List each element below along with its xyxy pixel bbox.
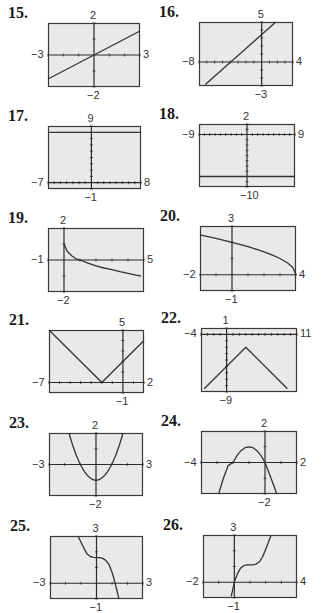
- window-label-bottom: −1: [227, 601, 240, 612]
- window-label-top: 5: [258, 9, 264, 20]
- window-label-right: 9: [298, 129, 304, 140]
- window-label-right: 4: [296, 56, 302, 67]
- window-label-bottom: −1: [90, 602, 103, 613]
- window-label-right: 4: [299, 269, 305, 280]
- window-label-bottom: −2: [89, 499, 102, 510]
- plot-window: [199, 124, 295, 187]
- plot-window: [49, 330, 144, 393]
- plot-window: [48, 228, 144, 292]
- window-label-bottom: −2: [258, 497, 271, 508]
- exercise-number: 18.: [159, 105, 179, 123]
- window-label-bottom: −2: [57, 295, 70, 306]
- window-label-top: 2: [243, 111, 249, 122]
- plot-window: [201, 328, 297, 392]
- window-label-left: −8: [182, 56, 195, 67]
- exercise-number: 25.: [10, 517, 30, 535]
- exercise-number: 16.: [159, 3, 179, 21]
- window-label-left: −7: [31, 177, 44, 188]
- exercise-number: 15.: [8, 4, 28, 22]
- window-label-left: −4: [184, 457, 197, 468]
- window-label-left: −9: [182, 129, 195, 140]
- window-label-top: 3: [230, 522, 236, 533]
- exercise-number: 26.: [163, 516, 183, 534]
- window-label-left: −2: [186, 576, 199, 587]
- window-label-left: −1: [31, 254, 44, 265]
- window-label-right: 2: [300, 457, 306, 468]
- plot-window: [203, 535, 297, 598]
- window-label-top: 9: [87, 113, 93, 124]
- window-label-left: −3: [31, 49, 44, 60]
- window-label-top: 1: [223, 315, 229, 326]
- window-label-left: −2: [183, 269, 196, 280]
- window-label-top: 2: [92, 420, 98, 431]
- window-label-right: 2: [147, 377, 153, 388]
- exercise-number: 19.: [8, 209, 28, 227]
- plot-window: [50, 536, 143, 599]
- window-label-bottom: −1: [116, 396, 129, 407]
- window-label-bottom: −1: [225, 294, 238, 305]
- window-label-right: 3: [146, 577, 152, 588]
- window-label-bottom: −3: [255, 89, 268, 100]
- window-label-right: 3: [143, 49, 149, 60]
- plot-window: [199, 22, 293, 86]
- window-label-top: 3: [228, 213, 234, 224]
- window-label-right: 3: [146, 459, 152, 470]
- plot-window: [48, 23, 140, 87]
- exercise-number: 24.: [161, 412, 181, 430]
- window-label-right: 5: [147, 254, 153, 265]
- window-label-top: 5: [119, 317, 125, 328]
- window-label-right: 8: [144, 177, 150, 188]
- window-label-right: 4: [300, 576, 306, 587]
- window-label-left: −4: [184, 328, 197, 339]
- window-label-left: −7: [32, 377, 45, 388]
- plot-window: [49, 433, 143, 496]
- window-label-bottom: −1: [84, 192, 97, 203]
- exercise-number: 23.: [9, 414, 29, 432]
- window-label-bottom: −9: [220, 395, 233, 406]
- window-label-top: 3: [93, 523, 99, 534]
- plot-window: [201, 431, 297, 494]
- exercise-number: 22.: [161, 309, 181, 327]
- window-label-top: 2: [90, 10, 96, 21]
- plot-window: [48, 126, 141, 189]
- exercise-number: 21.: [9, 311, 29, 329]
- window-label-top: 2: [60, 215, 66, 226]
- window-label-bottom: −2: [87, 90, 100, 101]
- window-label-right: 11: [300, 328, 311, 339]
- window-label-left: −3: [33, 577, 46, 588]
- exercise-number: 20.: [160, 207, 180, 225]
- plot-window: [200, 226, 296, 291]
- exercise-number: 17.: [8, 107, 28, 125]
- window-label-top: 2: [261, 418, 267, 429]
- window-label-bottom: −10: [240, 190, 259, 201]
- window-label-left: −3: [32, 459, 45, 470]
